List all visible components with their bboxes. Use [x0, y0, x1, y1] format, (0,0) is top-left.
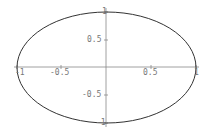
y-tick-label: -0.5: [82, 91, 101, 99]
circle-curve: [17, 12, 196, 123]
y-tick-label: 0.5: [87, 36, 101, 44]
y-tick-label: 1: [102, 8, 107, 16]
x-tick-label: 1: [194, 69, 199, 77]
plot-area: [0, 0, 205, 131]
x-tick-label: 0.5: [143, 69, 157, 77]
y-tick-label: -1: [96, 119, 106, 127]
x-tick-label: -0.5: [50, 69, 69, 77]
axis-ticks: [17, 12, 196, 123]
x-tick-label: -1: [15, 69, 25, 77]
